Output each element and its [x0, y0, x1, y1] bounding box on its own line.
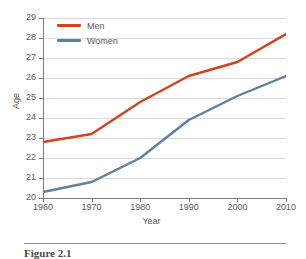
legend-label-men: Men	[87, 21, 105, 31]
x-axis-tick-label: 1980	[120, 202, 160, 212]
y-axis-tick-label: 21	[0, 173, 36, 182]
y-axis-tick-label: 27	[0, 53, 36, 62]
series-line-women	[43, 76, 286, 192]
x-axis-line	[43, 198, 287, 199]
legend-label-women: Women	[87, 36, 118, 46]
chart-legend: Men Women	[57, 18, 118, 48]
series-line-men	[43, 34, 286, 142]
legend-swatch-men	[57, 24, 81, 27]
legend-swatch-women	[57, 39, 81, 42]
x-axis-tick-label: 1990	[169, 202, 209, 212]
x-axis-tick-label: 2000	[217, 202, 257, 212]
y-axis-title: Age	[11, 81, 21, 121]
y-axis-tick-label: 28	[0, 33, 36, 42]
y-axis-tick-label: 29	[0, 13, 36, 22]
y-axis-tick-label: 22	[0, 153, 36, 162]
figure-caption: Figure 2.1	[24, 247, 294, 259]
x-axis-tick-label: 2010	[266, 202, 306, 212]
y-axis-tick-label: 23	[0, 133, 36, 142]
legend-item-men: Men	[57, 18, 118, 33]
x-axis-tick-label: 1960	[23, 202, 63, 212]
legend-item-women: Women	[57, 33, 118, 48]
x-axis-title: Year	[0, 216, 303, 226]
y-axis-tick-label: 20	[0, 193, 36, 202]
caption-divider	[24, 243, 286, 244]
x-axis-tick-label: 1970	[72, 202, 112, 212]
